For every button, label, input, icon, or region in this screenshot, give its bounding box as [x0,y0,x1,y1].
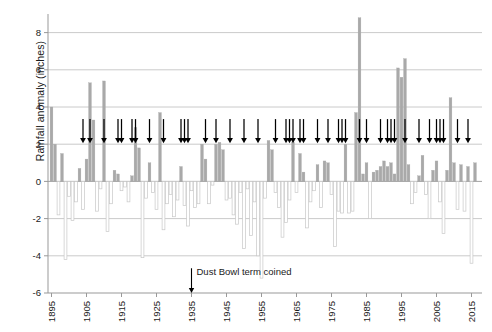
y-tick-label: -4 [33,250,41,261]
arrow-head [203,138,209,143]
bar-1927 [162,181,165,229]
x-tick-label: 2015 [466,301,477,322]
bar-1913 [113,170,116,181]
bar-1994 [397,68,400,181]
bar-1985 [365,163,368,182]
bar-1963 [288,181,291,200]
x-tick-label: 1935 [186,301,197,322]
bar-1895 [50,107,53,181]
bar-1907 [92,120,95,181]
x-tick-label: 1985 [361,301,372,322]
bar-1980 [348,181,351,213]
bar-1912 [110,181,113,203]
bar-2003 [428,181,431,218]
arrow-head [101,138,107,143]
bar-1960 [278,181,281,207]
arrow-head [343,138,349,143]
bar-1971 [316,165,319,182]
bar-2005 [435,161,438,181]
bar-1987 [372,172,375,181]
x-tick-label: 1975 [326,301,337,322]
bar-1988 [376,170,379,181]
bar-1925 [155,181,158,209]
bar-1965 [295,181,298,192]
arrow-head [80,138,86,143]
event-arrow-1939 [203,119,209,143]
bar-1926 [159,113,162,182]
bar-1923 [148,163,151,182]
bar-1959 [274,181,277,192]
bar-2004 [432,170,435,181]
event-arrow-1974 [325,119,331,143]
bar-1983 [358,18,361,182]
bar-2000 [418,176,421,182]
bar-1933 [183,181,186,205]
bar-1924 [152,181,155,192]
bar-2015 [470,181,473,263]
bar-1908 [96,181,99,211]
bar-2016 [474,163,477,182]
bar-1967 [302,172,305,181]
x-tick-label: 1945 [221,301,232,322]
arrow-head [416,138,422,143]
event-arrow-1942 [213,119,219,143]
bar-1951 [246,181,249,188]
bar-2010 [453,163,456,182]
bar-1947 [232,181,235,214]
event-arrow-1954 [255,119,261,143]
bar-1978 [341,181,344,213]
chart-svg: 86420-2-4-6Dust Bowl term coined18951905… [0,0,492,332]
bar-1928 [166,181,169,203]
bar-1969 [309,181,312,201]
bar-1918 [131,176,134,182]
bar-1938 [201,144,204,181]
bar-1943 [218,142,221,181]
bar-1958 [271,150,274,182]
event-arrow-1910 [101,119,107,143]
x-tick-label: 1895 [46,301,57,322]
bar-1997 [407,165,410,182]
arrow-head [364,138,370,143]
arrow-head [455,138,461,143]
bar-1916 [124,181,127,187]
bar-1898 [61,154,64,182]
annotation-label: Dust Bowl term coined [197,266,292,277]
event-arrow-1946 [227,119,233,143]
arrow-head [465,138,471,143]
x-tick-label: 1925 [151,301,162,322]
event-arrow-2011 [455,119,461,143]
bar-2007 [442,181,445,233]
bar-2008 [446,170,449,181]
event-arrow-1989 [378,119,384,143]
arrow-head [427,138,433,143]
bar-1970 [313,181,316,190]
bar-1896 [54,144,57,181]
y-tick-label: -6 [33,287,41,298]
arrow-head [241,138,247,143]
bar-2002 [425,181,428,194]
bar-1917 [127,181,130,201]
bar-1932 [180,167,183,182]
bar-1944 [222,150,225,182]
bar-1900 [68,181,71,196]
bar-1976 [334,181,337,246]
bar-1901 [71,181,74,220]
bar-1921 [141,181,144,257]
bar-1973 [323,161,326,181]
bar-1968 [306,181,309,228]
event-arrow-1950 [241,119,247,143]
bar-1920 [138,148,141,181]
x-tick-label: 1955 [256,301,267,322]
bar-1952 [250,181,253,235]
bar-1991 [386,167,389,182]
bar-1945 [225,181,228,200]
bar-1966 [299,154,302,182]
bar-1962 [285,181,288,222]
event-arrow-1985 [364,119,370,143]
bar-1915 [120,181,123,190]
bar-1899 [64,181,67,259]
bar-1984 [362,174,365,181]
bar-1914 [117,174,120,181]
x-tick-label: 1995 [396,301,407,322]
bar-1930 [173,181,176,216]
